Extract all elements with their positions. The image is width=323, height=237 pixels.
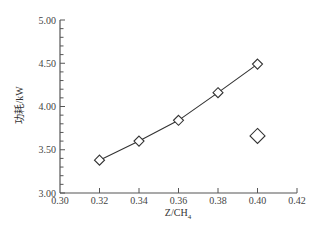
- x-tick-label: 0.34: [130, 195, 148, 206]
- diamond-marker: [253, 59, 263, 69]
- x-tick-label: 0.36: [170, 195, 188, 206]
- data-series: [95, 59, 266, 165]
- y-tick-label: 5.00: [39, 15, 57, 26]
- x-axis-label: Z/CH4: [165, 207, 192, 221]
- y-tick-label: 3.50: [39, 144, 57, 155]
- x-tick-label: 0.32: [91, 195, 109, 206]
- y-axis-label: 功耗/kW: [14, 86, 25, 124]
- diamond-marker: [95, 155, 105, 165]
- diamond-marker: [134, 136, 144, 146]
- diamond-marker: [213, 88, 223, 98]
- series-line: [100, 64, 258, 160]
- y-axis-ticks: 3.003.504.004.505.00: [39, 15, 66, 199]
- x-tick-label: 0.38: [209, 195, 227, 206]
- chart: 3.003.504.004.505.00 0.300.320.340.360.3…: [0, 0, 323, 237]
- axes: [60, 20, 297, 193]
- diamond-marker: [174, 115, 184, 125]
- diamond-marker: [250, 128, 265, 143]
- x-tick-label: 0.30: [51, 195, 69, 206]
- x-tick-label: 0.40: [249, 195, 267, 206]
- y-tick-label: 4.50: [39, 58, 57, 69]
- y-tick-label: 4.00: [39, 101, 57, 112]
- x-axis-ticks: 0.300.320.340.360.380.400.42: [51, 188, 306, 206]
- x-tick-label: 0.42: [288, 195, 306, 206]
